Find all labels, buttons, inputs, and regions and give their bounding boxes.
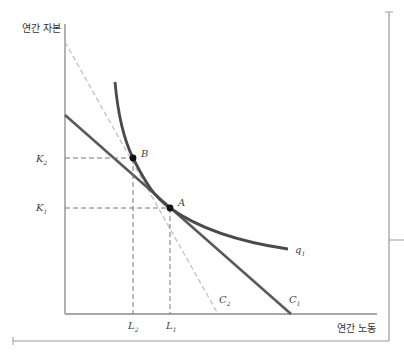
c1-label: C1 <box>289 294 300 307</box>
point-a <box>167 205 174 212</box>
point-b <box>130 155 137 162</box>
k2-label: K2 <box>36 153 47 166</box>
isoquant-curve <box>115 82 288 249</box>
x-axis-title: 연간 노동 <box>337 320 376 335</box>
k1-label: K1 <box>36 202 47 215</box>
y-axis-title: 연간 자본 <box>22 20 61 35</box>
isoquant-label: q1 <box>295 244 305 257</box>
isoquant-diagram <box>0 0 404 357</box>
cost-line-c2 <box>65 42 218 314</box>
l1-label: L1 <box>166 320 176 333</box>
c2-label: C2 <box>219 294 230 307</box>
point-b-label: B <box>141 148 148 159</box>
l2-label: L2 <box>128 320 138 333</box>
point-a-label: A <box>178 197 185 208</box>
